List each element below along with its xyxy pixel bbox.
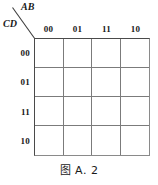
- figure-caption: 图 A. 2: [0, 163, 158, 179]
- kmap-cell-r0c2[interactable]: [92, 39, 121, 68]
- kmap-cell-r3c0[interactable]: [35, 126, 64, 155]
- kmap-cell-r2c1[interactable]: [64, 97, 93, 126]
- column-header-00: 00: [34, 22, 63, 36]
- kmap-cell-r1c1[interactable]: [64, 68, 93, 97]
- kmap-cell-r1c0[interactable]: [35, 68, 64, 97]
- column-header-11: 11: [92, 22, 121, 36]
- kmap-cell-r2c3[interactable]: [121, 97, 150, 126]
- kmap-cell-r3c3[interactable]: [121, 126, 150, 155]
- column-axis-label: AB: [21, 1, 35, 13]
- karnaugh-grid: [34, 38, 150, 156]
- column-header-01: 01: [63, 22, 92, 36]
- row-header-01: 01: [8, 68, 32, 98]
- kmap-cell-r3c2[interactable]: [92, 126, 121, 155]
- kmap-cell-r0c3[interactable]: [121, 39, 150, 68]
- kmap-cell-r0c1[interactable]: [64, 39, 93, 68]
- column-header-10: 10: [121, 22, 150, 36]
- kmap-cell-r1c3[interactable]: [121, 68, 150, 97]
- row-axis-label: CD: [3, 18, 17, 30]
- row-header-11: 11: [8, 97, 32, 127]
- kmap-cell-r2c2[interactable]: [92, 97, 121, 126]
- kmap-cell-r0c0[interactable]: [35, 39, 64, 68]
- row-header-column: 00 01 11 10: [8, 38, 32, 156]
- kmap-cell-r3c1[interactable]: [64, 126, 93, 155]
- kmap-cell-r1c2[interactable]: [92, 68, 121, 97]
- kmap-cell-r2c0[interactable]: [35, 97, 64, 126]
- column-header-row: 00 01 11 10: [34, 22, 150, 36]
- karnaugh-map-figure: 富 AB CD 00 01 11 10 00 01 11 10: [0, 0, 158, 185]
- row-header-10: 10: [8, 127, 32, 157]
- row-header-00: 00: [8, 38, 32, 68]
